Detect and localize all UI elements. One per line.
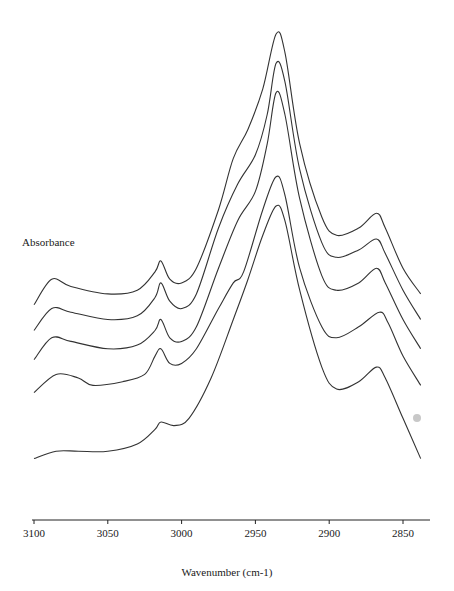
spectrum-line-2: [34, 61, 421, 330]
marker-dot: [413, 414, 421, 422]
spectrum-line-1: [34, 32, 421, 305]
spectrum-line-4: [34, 176, 421, 393]
x-tick-label: 2950: [244, 527, 267, 539]
x-axis-label: Wavenumber (cm-1): [0, 566, 454, 578]
x-tick-label: 3050: [97, 527, 120, 539]
y-axis-label: Absorbance: [22, 236, 75, 248]
spectra-chart: 310030503000295029002850: [0, 0, 454, 591]
x-tick-label: 3000: [171, 527, 194, 539]
spectrum-line-5: [34, 205, 421, 458]
x-tick-label: 2850: [392, 527, 415, 539]
spectra-curves: [34, 32, 421, 459]
x-tick-label: 2900: [318, 527, 341, 539]
x-tick-label: 3100: [23, 527, 46, 539]
x-axis: 310030503000295029002850: [23, 520, 430, 539]
